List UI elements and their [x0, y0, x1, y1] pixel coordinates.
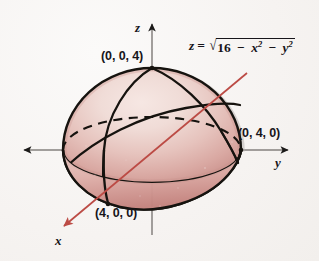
- point-marker-z: [150, 66, 155, 71]
- equation-minus-1: −: [234, 40, 248, 55]
- equation-constant: 16: [217, 40, 231, 55]
- z-axis-label: z: [135, 21, 140, 34]
- point-label-x-intercept: (4, 0, 0): [95, 207, 137, 220]
- equation-equals: =: [194, 38, 208, 54]
- x-axis-label: x: [55, 234, 62, 247]
- radical-group: √ 16 − x2 − y2: [209, 38, 295, 56]
- y-axis-label: y: [275, 156, 281, 169]
- radical-sign-icon: √: [210, 38, 217, 53]
- equation-exp-y: 2: [289, 39, 293, 49]
- point-marker-y: [239, 148, 244, 153]
- equation-term-x: x: [251, 40, 258, 55]
- figure-canvas: z y x (0, 0, 4) (0, 4, 0) (4, 0, 0) z = …: [0, 0, 319, 261]
- hemisphere-solid: [63, 68, 244, 210]
- point-label-y-intercept: (0, 4, 0): [238, 127, 280, 140]
- surface-equation-label: z = √ 16 − x2 − y2: [189, 38, 295, 56]
- point-label-z-intercept: (0, 0, 4): [101, 50, 143, 63]
- equation-exp-x: 2: [258, 39, 262, 49]
- radicand: 16 − x2 − y2: [216, 38, 295, 56]
- equation-minus-2: −: [266, 40, 280, 55]
